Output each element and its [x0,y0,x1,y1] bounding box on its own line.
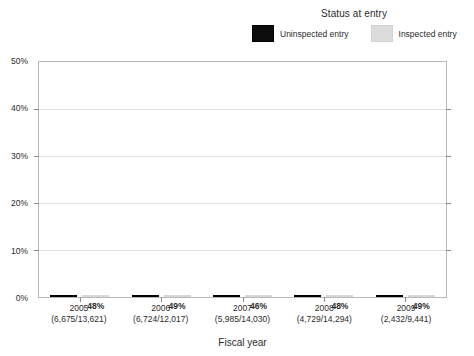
y-axis: 50% 40% 30% 20% 10% 0% [0,61,34,298]
y-tick-label-50: 50% [11,56,28,66]
bar-wrapper: 48% [82,295,109,297]
bar-group: 32%49% [120,62,201,297]
legend-title: Status at entry [238,8,470,20]
x-tick-year: 2006 [120,303,202,314]
x-tick-label: 2008(4,729/14,294) [283,303,365,325]
x-tick-counts: (2,432/9,441) [365,314,447,325]
x-tick-label: 2005(6,675/13,621) [38,303,120,325]
y-tick-mark-20-right [446,203,451,204]
x-tick-mark [161,297,162,302]
x-tick-mark [405,297,406,302]
x-tick-year: 2009 [365,303,447,314]
bar-group: 37%48% [39,62,120,297]
x-tick-mark [324,297,325,302]
x-tick-year: 2007 [202,303,284,314]
y-tick-mark-30-right [446,156,451,157]
bar-uninspected[interactable]: 36% [376,295,403,297]
x-tick-counts: (4,729/14,294) [283,314,365,325]
bar-uninspected[interactable]: 29% [294,295,321,297]
bar-group: 36%49% [365,62,446,297]
x-tick-counts: (6,675/13,621) [38,314,120,325]
bar-wrapper: 49% [164,295,191,297]
x-tick-counts: (6,724/12,017) [120,314,202,325]
bar-wrapper: 46% [245,295,272,297]
dark-swatch-icon [252,25,274,42]
bar-inspected[interactable]: 46% [245,295,272,297]
bar-groups: 37%48%32%49%26%46%29%48%36%49% [39,62,446,297]
bar-wrapper: 48% [326,295,353,297]
y-tick-label-10: 10% [11,246,28,256]
y-tick-mark-40-right [446,109,451,110]
x-tick-counts: (5,985/14,030) [202,314,284,325]
chart-legend: Status at entry Uninspected entry Inspec… [238,8,470,53]
bar-wrapper: 37% [50,295,77,297]
bar-group: 29%48% [283,62,364,297]
plot-area: 37%48%32%49%26%46%29%48%36%49% [38,61,447,298]
bar-wrapper: 49% [408,295,435,297]
legend-items: Uninspected entry Inspected entry [238,25,470,42]
y-tick-label-0: 0% [16,293,28,303]
y-tick-mark-10-right [446,250,451,251]
x-tick-label: 2006(6,724/12,017) [120,303,202,325]
x-axis-title: Fiscal year [38,337,447,348]
bar-wrapper: 32% [132,295,159,297]
bar-group: 26%46% [202,62,283,297]
bar-uninspected[interactable]: 32% [132,295,159,297]
light-swatch-icon [371,25,393,42]
bar-inspected[interactable]: 49% [164,295,191,297]
legend-entry-uninspected: Uninspected entry [252,25,349,42]
legend-label-inspected: Inspected entry [399,29,457,39]
bar-wrapper: 29% [294,295,321,297]
x-tick-year: 2005 [38,303,120,314]
bar-uninspected[interactable]: 37% [50,295,77,297]
bar-inspected[interactable]: 48% [82,295,109,297]
bar-inspected[interactable]: 48% [326,295,353,297]
x-axis-labels: 2005(6,675/13,621)2006(6,724/12,017)2007… [38,303,447,325]
bar-wrapper: 26% [213,295,240,297]
x-tick-mark [243,297,244,302]
y-tick-label-40: 40% [11,103,28,113]
x-tick-year: 2008 [283,303,365,314]
y-tick-label-20: 20% [11,198,28,208]
y-tick-label-30: 30% [11,151,28,161]
legend-label-uninspected: Uninspected entry [280,29,349,39]
legend-entry-inspected: Inspected entry [371,25,457,42]
x-tick-label: 2007(5,985/14,030) [202,303,284,325]
x-tick-label: 2009(2,432/9,441) [365,303,447,325]
bar-wrapper: 36% [376,295,403,297]
x-tick-mark [80,297,81,302]
bar-inspected[interactable]: 49% [408,295,435,297]
bar-uninspected[interactable]: 26% [213,295,240,297]
